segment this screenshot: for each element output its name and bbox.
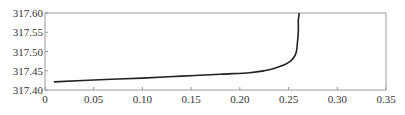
y-tick-label: 317.55: [13, 26, 44, 38]
y-tick-label: 317.40: [13, 84, 44, 96]
y-tick-label: 317.50: [13, 46, 44, 58]
data-line: [54, 13, 299, 82]
y-axis: 317.40317.45317.50317.55317.60: [13, 7, 48, 96]
x-tick-label: 0.05: [84, 93, 104, 105]
x-tick-label: 0: [42, 93, 48, 105]
x-tick-label: 0.25: [279, 93, 299, 105]
y-tick-label: 317.60: [13, 7, 44, 19]
x-tick-label: 0.10: [133, 93, 153, 105]
plot-frame: [45, 13, 386, 90]
x-tick-label: 0.20: [230, 93, 250, 105]
x-tick-label: 0.30: [328, 93, 348, 105]
y-tick-label: 317.45: [13, 65, 44, 77]
line-chart: 317.40317.45317.50317.55317.60 00.050.10…: [0, 0, 405, 115]
x-tick-label: 0.15: [182, 93, 202, 105]
x-tick-label: 0.35: [376, 93, 396, 105]
